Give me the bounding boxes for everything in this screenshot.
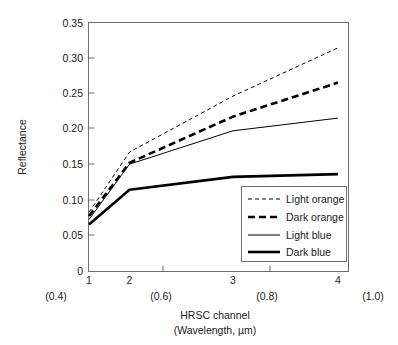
- y-tick-label: 0.10: [63, 194, 84, 206]
- x-wavelength-label: (0.4): [45, 290, 67, 302]
- x-wavelength-label: (1.0): [362, 290, 384, 302]
- y-tick-label: 0.05: [63, 229, 84, 241]
- x-tick-label: 2: [127, 274, 133, 286]
- y-tick-label: 0: [77, 265, 83, 277]
- y-axis-title: Reflectance: [16, 119, 28, 175]
- x-axis-subtitle: (Wavelength, µm): [174, 324, 257, 336]
- x-tickmarks: [163, 266, 270, 272]
- x-tick-label: 4: [335, 274, 341, 286]
- x-tick-label: 1: [86, 274, 92, 286]
- legend-label: Dark orange: [286, 211, 344, 223]
- y-tick-label: 0.35: [63, 17, 84, 29]
- legend-label: Light orange: [286, 193, 345, 205]
- x-wavelength-label: (0.8): [256, 290, 278, 302]
- legend[interactable]: Light orange Dark orange Light blue Dark…: [242, 187, 347, 262]
- chart-svg: 0.35 0.30 0.25 0.20 0.15 0.10 0.05 0 1 2…: [0, 0, 398, 345]
- y-tick-label: 0.20: [63, 122, 84, 134]
- y-tick-label: 0.30: [63, 52, 84, 64]
- y-tick-label: 0.15: [63, 158, 84, 170]
- x-tick-labels: 1 2 3 4: [86, 274, 341, 286]
- x-wavelength-labels: (0.4) (0.6) (0.8) (1.0): [45, 290, 384, 302]
- y-tickmarks: [89, 58, 95, 235]
- y-tick-labels: 0.35 0.30 0.25 0.20 0.15 0.10 0.05 0: [63, 17, 84, 278]
- reflectance-chart-figure: 0.35 0.30 0.25 0.20 0.15 0.10 0.05 0 1 2…: [0, 0, 398, 345]
- x-tick-label: 3: [230, 274, 236, 286]
- x-axis-title: HRSC channel: [180, 309, 249, 321]
- legend-label: Light blue: [286, 229, 332, 241]
- legend-label: Dark blue: [286, 246, 331, 258]
- x-wavelength-label: (0.6): [150, 290, 172, 302]
- y-tick-label: 0.25: [63, 87, 84, 99]
